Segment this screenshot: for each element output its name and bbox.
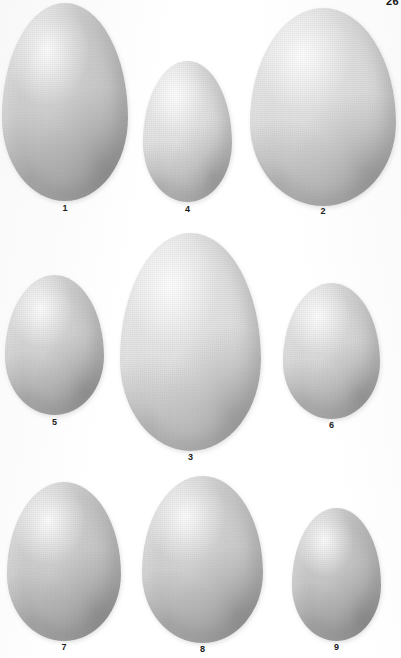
egg-shading (250, 8, 396, 206)
egg-body (283, 283, 380, 419)
egg-number-label: 3 (120, 452, 261, 462)
egg-grain-texture (142, 476, 263, 643)
egg-grain-texture (7, 482, 121, 641)
egg-specimen (2, 3, 128, 201)
egg-grain-texture (120, 233, 261, 451)
egg-specimen (142, 476, 263, 643)
egg-specimen (250, 8, 396, 206)
egg-number-label: 5 (5, 417, 104, 427)
egg-number-label: 4 (143, 204, 232, 214)
egg-number-label: 7 (7, 642, 121, 652)
egg-body (5, 275, 104, 415)
egg-shading (120, 233, 261, 451)
egg-specimen (5, 275, 104, 415)
egg-body (250, 8, 396, 206)
egg-body (292, 508, 381, 641)
egg-body (7, 482, 121, 641)
egg-number-label: 1 (2, 203, 128, 213)
egg-specimen (143, 61, 232, 202)
page-number: 26 (386, 0, 399, 5)
egg-shading (292, 508, 381, 641)
egg-grain-texture (5, 275, 104, 415)
egg-body (143, 61, 232, 202)
egg-number-label: 2 (250, 206, 396, 216)
egg-body (120, 233, 261, 451)
egg-shading (7, 482, 121, 641)
egg-number-label: 6 (283, 420, 380, 430)
egg-grain-texture (250, 8, 396, 206)
egg-shading (2, 3, 128, 201)
egg-grain-texture (2, 3, 128, 201)
egg-shading (142, 476, 263, 643)
egg-specimen (292, 508, 381, 641)
egg-specimen (120, 233, 261, 451)
egg-shading (143, 61, 232, 202)
egg-body (142, 476, 263, 643)
egg-shading (283, 283, 380, 419)
egg-plate-figure: 26 142536789 (0, 0, 401, 658)
egg-body (2, 3, 128, 201)
egg-specimen (7, 482, 121, 641)
egg-specimen (283, 283, 380, 419)
egg-grain-texture (292, 508, 381, 641)
egg-grain-texture (283, 283, 380, 419)
egg-shading (5, 275, 104, 415)
egg-number-label: 9 (292, 642, 381, 652)
egg-number-label: 8 (142, 644, 263, 654)
egg-grain-texture (143, 61, 232, 202)
